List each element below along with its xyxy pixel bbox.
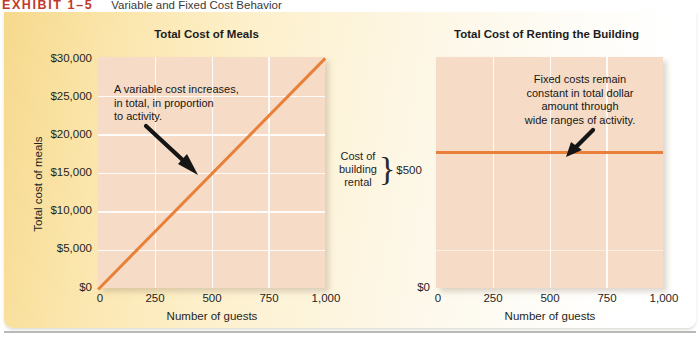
left-x-tick-750: 750 — [259, 292, 278, 304]
building-rental-label: Cost of building rental — [339, 150, 377, 189]
exhibit-tag: EXHIBIT 1–5 — [2, 0, 93, 12]
brace-icon: } — [379, 156, 395, 183]
right-gridline-v-250 — [493, 57, 495, 288]
chart-total-cost-of-renting-the-building: Total Cost of Renting the Building Cost … — [334, 18, 694, 318]
right-gridline-h-lower — [436, 250, 663, 252]
left-chart-annotation: A variable cost increases, in total, in … — [114, 83, 284, 124]
left-y-tick-6: $30,000 — [14, 52, 92, 64]
fixed-cost-line — [436, 151, 663, 154]
left-y-tick-2: $10,000 — [14, 204, 92, 216]
left-chart-title: Total Cost of Meals — [74, 28, 339, 40]
left-gridline-h-5000 — [98, 250, 325, 252]
left-chart-plot-area: A variable cost increases, in total, in … — [98, 57, 325, 288]
left-y-tick-5: $25,000 — [14, 90, 92, 102]
fixed-cost-arrow — [561, 127, 601, 159]
left-y-tick-1: $5,000 — [14, 242, 92, 254]
left-y-tick-3: $15,000 — [14, 166, 92, 178]
building-rental-value: $500 — [396, 164, 422, 176]
left-x-tick-250: 250 — [145, 292, 164, 304]
right-chart-x-axis-label: Number of guests — [436, 310, 664, 322]
left-x-tick-500: 500 — [202, 292, 221, 304]
right-chart-title: Total Cost of Renting the Building — [404, 28, 689, 40]
right-x-tick-500: 500 — [540, 292, 559, 304]
left-y-tick-0: $0 — [14, 281, 92, 293]
building-rental-callout: Cost of building rental } $500 — [339, 150, 422, 189]
exhibit-panel: Total Cost of Meals Total cost of meals … — [4, 12, 696, 328]
right-x-tick-250: 250 — [483, 292, 502, 304]
bottom-divider — [4, 331, 696, 333]
chart-total-cost-of-meals: Total Cost of Meals Total cost of meals … — [14, 18, 344, 318]
left-y-tick-4: $20,000 — [14, 128, 92, 140]
right-x-tick-1000: 1,000 — [650, 292, 679, 304]
right-chart-annotation: Fixed costs remain constant in total dol… — [500, 73, 660, 127]
right-x-tick-750: 750 — [597, 292, 616, 304]
left-x-tick-0: 0 — [97, 292, 103, 304]
variable-cost-arrow — [142, 123, 212, 178]
exhibit-header: EXHIBIT 1–5 Variable and Fixed Cost Beha… — [0, 0, 700, 12]
right-x-tick-0: 0 — [435, 292, 441, 304]
exhibit-screenshot: EXHIBIT 1–5 Variable and Fixed Cost Beha… — [0, 0, 700, 340]
left-chart-x-axis-label: Number of guests — [98, 310, 326, 322]
right-chart-plot-area: Fixed costs remain constant in total dol… — [436, 57, 663, 288]
exhibit-subtitle: Variable and Fixed Cost Behavior — [111, 0, 281, 11]
left-gridline-h-10000 — [98, 211, 325, 213]
right-y-tick-0: $0 — [334, 281, 430, 293]
